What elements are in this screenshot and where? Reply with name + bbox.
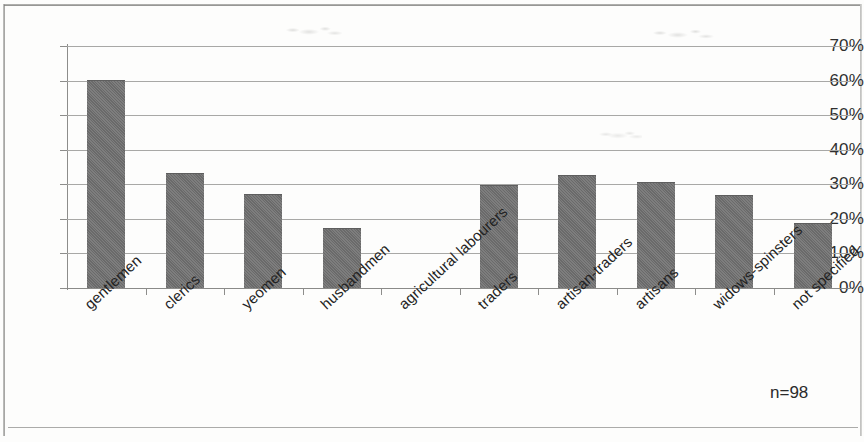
x-axis-tick-mark xyxy=(617,288,618,295)
x-axis-tick-mark xyxy=(381,288,382,295)
gridline xyxy=(67,150,852,151)
x-axis-tick-mark xyxy=(774,288,775,295)
x-axis-tick-mark xyxy=(224,288,225,295)
gridline xyxy=(67,115,852,116)
bar xyxy=(166,173,204,288)
x-axis-tick-mark xyxy=(146,288,147,295)
bar-chart: 0%10%20%30%40%50%60%70% gentlemenclerics… xyxy=(0,0,864,442)
x-axis-tick-mark xyxy=(303,288,304,295)
gridline xyxy=(67,46,852,47)
sample-size-annotation: n=98 xyxy=(770,383,808,403)
x-axis-tick-mark xyxy=(695,288,696,295)
figure-page: 0%10%20%30%40%50%60%70% gentlemenclerics… xyxy=(0,0,864,442)
gridline xyxy=(67,81,852,82)
bar xyxy=(87,80,125,288)
x-axis-tick-mark xyxy=(538,288,539,295)
x-axis-tick-mark xyxy=(460,288,461,295)
